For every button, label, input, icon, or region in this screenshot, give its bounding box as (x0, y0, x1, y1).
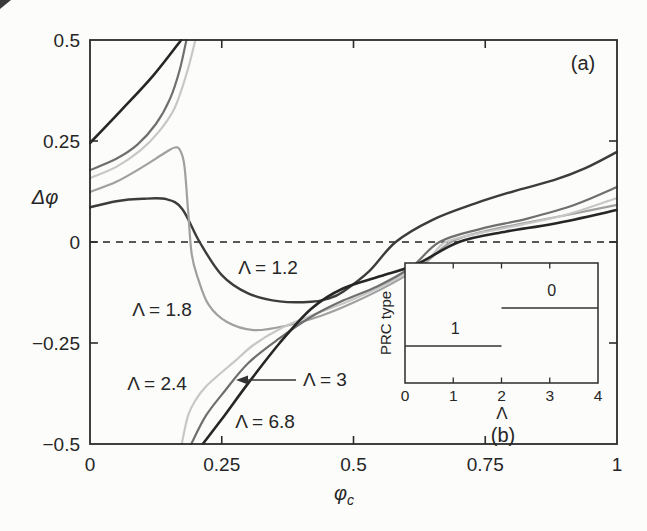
curve-label: Λ = 2.4 (127, 373, 187, 394)
curve-label: Λ = 6.8 (235, 411, 295, 432)
x-tick-label: 0.75 (467, 454, 504, 475)
y-tick-label: −0.25 (32, 333, 80, 354)
inset-x-tick-label: 2 (497, 387, 506, 404)
figure: 00.250.50.7510.50.250−0.25−0.5 Δφ φc (a)… (0, 0, 647, 531)
curve-label: Λ = 3 (303, 369, 347, 390)
inset-segment-label: 1 (451, 320, 460, 337)
x-tick-label: 0 (85, 454, 96, 475)
inset-x-tick-label: 3 (545, 387, 554, 404)
curve-label: Λ = 1.8 (132, 299, 192, 320)
y-tick-label: 0.25 (43, 131, 80, 152)
inset-y-axis-label: PRC type (377, 291, 394, 355)
inset-segment-label: 0 (547, 282, 556, 299)
y-tick-label: 0 (69, 232, 80, 253)
inset-x-tick-label: 4 (594, 387, 603, 404)
inset-x-tick-label: 1 (449, 387, 458, 404)
x-axis-label-symbol: φ (334, 482, 347, 504)
phase-response-figure: 00.250.50.7510.50.250−0.25−0.5 Δφ φc (a)… (0, 0, 647, 531)
y-tick-label: 0.5 (54, 30, 80, 51)
inset-axes-frame (405, 263, 598, 383)
x-tick-label: 0.5 (340, 454, 366, 475)
y-tick-label: −0.5 (42, 434, 80, 455)
panel-a-label: (a) (571, 52, 595, 74)
x-axis-label-subscript: c (347, 492, 354, 508)
x-tick-label: 1 (612, 454, 623, 475)
y-axis-label: Δφ (31, 186, 58, 208)
curve-label: Λ = 1.2 (238, 257, 298, 278)
inset-x-axis-label: Λ (496, 404, 508, 423)
panel-b-label: (b) (491, 424, 515, 446)
inset-x-tick-label: 0 (401, 387, 410, 404)
x-tick-label: 0.25 (203, 454, 240, 475)
